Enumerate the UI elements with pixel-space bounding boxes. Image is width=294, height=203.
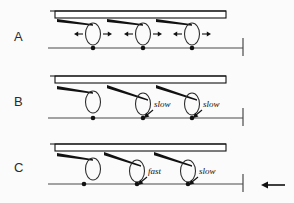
substrate-bar [55, 144, 226, 151]
motion-label-fast: fast [148, 166, 162, 176]
attachment-dot [91, 116, 96, 121]
substrate-bar [55, 11, 226, 18]
panel-label-b: B [14, 94, 23, 109]
attachment-dot [190, 116, 195, 121]
figure-canvas: ABslowslowCfastslow [0, 0, 294, 203]
panel-label-c: C [14, 160, 23, 175]
motion-label-slow: slow [199, 166, 216, 176]
attachment-dot [82, 182, 87, 187]
panel-label-a: A [14, 29, 23, 44]
motion-label-slow: slow [203, 99, 220, 109]
motion-label-slow: slow [154, 99, 171, 109]
attachment-dot [141, 116, 146, 121]
figure-background [0, 0, 294, 203]
attachment-dot [190, 46, 195, 51]
substrate-bar [55, 76, 226, 83]
attachment-dot [141, 46, 146, 51]
attachment-dot [91, 46, 96, 51]
